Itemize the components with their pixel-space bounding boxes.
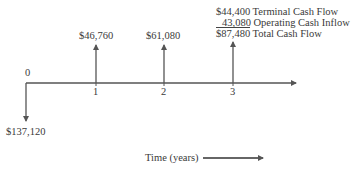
breakdown-amount: $87,480 (216, 27, 250, 39)
breakdown-row-total: $87,480 Total Cash Flow (216, 28, 322, 40)
tick-label-0: 0 (25, 67, 30, 79)
cash-flow-label-1: $46,760 (79, 30, 113, 42)
tick-label-1: 1 (93, 86, 98, 98)
breakdown-description: Total Cash Flow (253, 28, 322, 39)
x-axis-label: Time (years) (145, 152, 199, 164)
breakdown-amount: $44,400 (216, 6, 250, 17)
breakdown-description: Terminal Cash Flow (253, 6, 339, 17)
cash-flow-label-2: $61,080 (146, 30, 180, 42)
breakdown-description: Operating Cash Inflow (254, 17, 350, 28)
tick-label-3: 3 (230, 86, 235, 98)
cash-flow-label-0: $137,120 (6, 126, 45, 138)
tick-label-2: 2 (161, 86, 166, 98)
